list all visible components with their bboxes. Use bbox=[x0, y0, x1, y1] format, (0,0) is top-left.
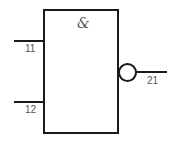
input-label-11: 11 bbox=[25, 43, 36, 54]
output-label-21: 21 bbox=[147, 75, 159, 86]
input-label-12: 12 bbox=[25, 104, 37, 115]
nand-gate-diagram: & 11 12 21 bbox=[0, 0, 177, 145]
inversion-bubble-icon bbox=[119, 64, 136, 81]
and-symbol: & bbox=[77, 15, 89, 31]
